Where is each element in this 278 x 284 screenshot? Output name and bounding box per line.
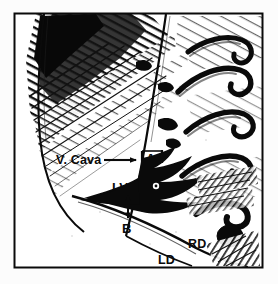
label-left-diaphragm: LD: [158, 254, 175, 267]
label-atrium: A: [146, 152, 156, 165]
figure-canvas: V. Cava A LV B RD LD: [0, 0, 278, 284]
label-vena-cava: V. Cava: [56, 154, 101, 167]
anatomical-illustration: [0, 0, 278, 284]
label-right-diaphragm: RD: [188, 238, 206, 251]
label-left-ventricle: LV: [112, 181, 128, 194]
label-measure-b: B: [122, 222, 132, 235]
